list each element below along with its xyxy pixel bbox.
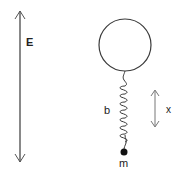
displacement-label: x xyxy=(166,104,171,115)
spring-label: b xyxy=(104,104,110,116)
field-label: E xyxy=(26,36,33,48)
diagram-canvas: E m b x xyxy=(0,0,181,171)
spring xyxy=(120,71,127,150)
displacement-double-arrow xyxy=(151,90,159,127)
mass-point xyxy=(121,149,128,156)
mass-label: m xyxy=(119,157,128,169)
balloon-circle xyxy=(99,19,151,71)
field-double-arrow xyxy=(15,11,25,162)
